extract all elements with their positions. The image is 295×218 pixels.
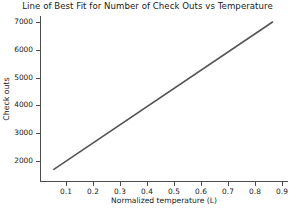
- plot-area: [40, 16, 288, 181]
- y-tick-mark: [36, 105, 40, 106]
- x-axis-label: Normalized temperature (L): [40, 196, 288, 205]
- chart-figure: Line of Best Fit for Number of Check Out…: [0, 0, 295, 218]
- x-tick-label: 0.1: [51, 187, 81, 196]
- x-tick-label: 0.7: [213, 187, 243, 196]
- y-tick-mark: [36, 78, 40, 79]
- y-tick-mark: [36, 133, 40, 134]
- y-tick-label: 5000: [14, 74, 33, 82]
- x-tick-mark: [93, 182, 94, 186]
- x-tick-mark: [282, 182, 283, 186]
- x-tick-mark: [201, 182, 202, 186]
- x-tick-label: 0.4: [132, 187, 162, 196]
- y-axis-label: Check outs: [2, 77, 11, 120]
- y-tick-mark: [36, 50, 40, 51]
- x-tick-label: 0.2: [78, 187, 108, 196]
- x-tick-mark: [120, 182, 121, 186]
- y-axis-label-container: Check outs: [0, 16, 12, 181]
- x-tick-mark: [147, 182, 148, 186]
- y-tick-mark: [36, 161, 40, 162]
- y-tick-label: 4000: [14, 101, 33, 109]
- x-tick-mark: [174, 182, 175, 186]
- x-tick-mark: [228, 182, 229, 186]
- y-tick-label: 6000: [14, 46, 33, 54]
- x-tick-label: 0.5: [159, 187, 189, 196]
- y-tick-mark: [36, 22, 40, 23]
- x-tick-label: 0.8: [240, 187, 270, 196]
- x-tick-label: 0.3: [105, 187, 135, 196]
- y-tick-label: 3000: [14, 129, 33, 137]
- x-tick-mark: [66, 182, 67, 186]
- x-tick-label: 0.6: [186, 187, 216, 196]
- x-tick-label: 0.9: [267, 187, 295, 196]
- y-tick-label: 7000: [14, 18, 33, 26]
- x-axis-spine: [40, 181, 288, 182]
- chart-title: Line of Best Fit for Number of Check Out…: [0, 1, 295, 12]
- y-tick-label: 2000: [14, 157, 33, 165]
- x-tick-mark: [255, 182, 256, 186]
